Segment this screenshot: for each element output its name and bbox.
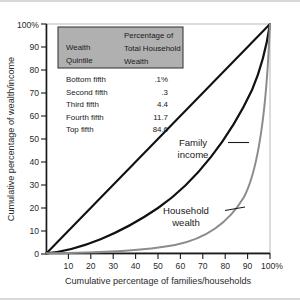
x-tick-label-80: 80 (220, 261, 230, 271)
y-tick-label-10: 10 (29, 226, 39, 236)
x-tick-label-20: 20 (86, 261, 96, 271)
x-tick-label-50: 50 (153, 261, 163, 271)
legend-row-label-0: Bottom fifth (66, 75, 106, 84)
legend-header-col1-line1: Wealth (66, 43, 90, 52)
x-tick-label-70: 70 (198, 261, 208, 271)
legend-header-col2-line1: Percentage of (124, 31, 174, 40)
y-tick-label-80: 80 (29, 65, 39, 75)
x-axis-title: Cumulative percentage of families/househ… (65, 276, 251, 286)
legend-row-value-3: 11.7 (153, 113, 168, 122)
household-wealth-label-line2: wealth (171, 217, 200, 228)
legend-row-label-1: Second fifth (66, 88, 108, 97)
x-tick-label-40: 40 (131, 261, 141, 271)
y-tick-label-60: 60 (29, 111, 39, 121)
x-tick-label-60: 60 (176, 261, 186, 271)
y-tick-label-70: 70 (29, 88, 39, 98)
y-tick-label-30: 30 (29, 180, 39, 190)
legend-row-value-0: .1% (154, 75, 168, 84)
legend-row-value-2: 4.4 (157, 100, 169, 109)
y-tick-label-40: 40 (29, 157, 39, 167)
legend-header-col2-line2: Total Household (124, 44, 181, 53)
y-tick-label-90: 90 (29, 42, 39, 52)
y-tick-label-50: 50 (29, 134, 39, 144)
legend-row-value-4: 84.6 (153, 125, 169, 134)
y-tick-label-0: 0 (34, 249, 39, 259)
x-tick-label-10: 10 (64, 261, 74, 271)
y-tick-label-20: 20 (29, 203, 39, 213)
legend-row-value-1: .3 (161, 88, 168, 97)
x-tick-label-90: 90 (243, 261, 253, 271)
figure-container: 0 10 20 30 40 50 60 70 80 90 100% 10 20 … (0, 0, 300, 300)
x-tick-label-100: 100% (261, 261, 283, 271)
legend-row-label-2: Third fifth (66, 100, 99, 109)
x-tick-label-30: 30 (108, 261, 118, 271)
y-tick-label-100: 100% (17, 20, 39, 30)
legend-row-label-4: Top fifth (66, 125, 94, 134)
family-income-label-line2: income (178, 149, 209, 160)
lorenz-curve-chart: 0 10 20 30 40 50 60 70 80 90 100% 10 20 … (0, 2, 300, 300)
legend-header-col2-line3: Wealth (124, 57, 148, 66)
family-income-label-line1: Family (179, 137, 207, 148)
legend-header-col1-line2: Quintile (66, 56, 93, 65)
household-wealth-label-line1: Household (163, 205, 209, 216)
y-axis-title: Cumulative percentage of wealth/income (6, 57, 16, 221)
legend-row-label-3: Fourth fifth (66, 113, 104, 122)
